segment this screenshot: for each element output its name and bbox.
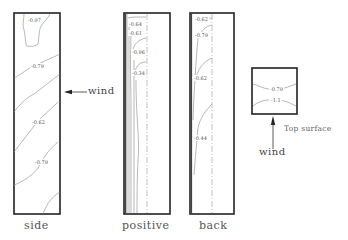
positive-contour-label-4: -0.34 xyxy=(131,70,146,76)
back-panel-title: back xyxy=(199,219,227,232)
side-wind-arrow xyxy=(64,90,87,94)
side-contour-label-1: -0.97 xyxy=(27,17,42,23)
positive-panel-title: positive xyxy=(122,219,170,232)
positive-panel xyxy=(124,13,170,214)
side-contour-label-2: -0.79 xyxy=(30,63,45,69)
back-contour-label-2: -0.79 xyxy=(194,32,209,38)
positive-contour-label-2: -0.61 xyxy=(128,30,143,36)
back-contour-label-4: -0.44 xyxy=(193,135,208,141)
top-wind-label: wind xyxy=(259,146,286,157)
back-contour-label-1: -0.62 xyxy=(194,16,209,22)
top-panel-title: Top surface xyxy=(284,124,332,133)
arrow-up-icon xyxy=(271,116,275,125)
side-contour-label-3: -0.62 xyxy=(31,119,46,125)
top-contour-label-2: -1.1 xyxy=(270,97,282,103)
diagram-canvas xyxy=(0,0,348,240)
top-contour-label-1: -0.79 xyxy=(269,86,284,92)
back-panel xyxy=(190,13,234,214)
side-contour-label-4: -0.79 xyxy=(34,159,49,165)
side-panel xyxy=(14,13,60,214)
top-wind-arrow xyxy=(271,116,275,149)
wind-pressure-diagram: -0.97 -0.79 -0.62 -0.79 wind side -0.64 … xyxy=(0,0,348,240)
positive-contour-label-3: -0.96 xyxy=(131,49,146,55)
side-wind-label: wind xyxy=(88,85,115,96)
positive-contour-label-1: -0.64 xyxy=(128,21,143,27)
side-panel-frame xyxy=(14,13,60,214)
side-panel-title: side xyxy=(24,219,49,232)
back-contour-label-3: -0.62 xyxy=(193,75,208,81)
arrow-left-icon xyxy=(64,90,72,94)
